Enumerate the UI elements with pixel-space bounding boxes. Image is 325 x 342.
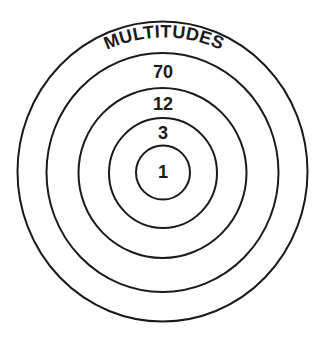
- label-three: 3: [158, 123, 168, 143]
- concentric-circles-diagram: MULTITUDES 70 12 3 1: [0, 0, 325, 342]
- label-seventy: 70: [153, 62, 173, 82]
- label-one: 1: [158, 162, 168, 182]
- label-twelve: 12: [153, 94, 173, 114]
- diagram-canvas: MULTITUDES 70 12 3 1: [0, 0, 325, 342]
- title-multitudes: MULTITUDES: [101, 21, 227, 53]
